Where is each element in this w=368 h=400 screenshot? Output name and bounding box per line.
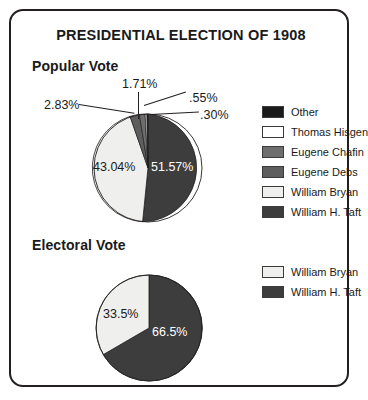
legend-item-eugene-debs[interactable]: Eugene Debs [262, 162, 368, 182]
legend-swatch-thomas-hisgen [262, 126, 284, 138]
legend-item-william-bryan[interactable]: William Bryan [262, 182, 368, 202]
legend-item-thomas-hisgen[interactable]: Thomas Hisgen [262, 122, 368, 142]
legend-label-william-bryan: William Bryan [291, 186, 358, 198]
legend-swatch-william-bryan [262, 186, 284, 198]
legend-item-eugene-chafin[interactable]: Eugene Chafin [262, 142, 368, 162]
popular-vote-pie-chart: 51.57% 43.04% [89, 109, 207, 227]
legend-label-other: Other [291, 106, 319, 118]
slice-label-william-bryan: 33.5% [103, 307, 138, 321]
callout-thomas-hisgen: .55% [189, 91, 218, 105]
slice-label-william-bryan: 43.04% [93, 160, 135, 174]
leader-line-thomas-hisgen [144, 91, 186, 106]
legend-label-thomas-hisgen: Thomas Hisgen [291, 126, 368, 138]
electoral-vote-pie-chart: 66.5% 33.5% [90, 269, 208, 387]
page-title: PRESIDENTIAL ELECTION OF 1908 [11, 27, 351, 43]
electoral-vote-pie-svg [90, 269, 208, 387]
legend-swatch-william-h-taft [262, 286, 284, 298]
legend-label-william-h-taft: William H. Taft [291, 286, 361, 298]
callout-eugene-chafin: 1.71% [122, 77, 157, 91]
slice-label-william-h-taft: 66.5% [152, 325, 187, 339]
legend-item-other[interactable]: Other [262, 102, 368, 122]
chart-card: PRESIDENTIAL ELECTION OF 1908 Popular Vo… [9, 9, 349, 387]
legend-item-william-h-taft[interactable]: William H. Taft [262, 282, 361, 302]
legend-swatch-eugene-chafin [262, 146, 284, 158]
electoral-vote-heading: Electoral Vote [32, 237, 126, 253]
electoral-vote-legend: William Bryan William H. Taft [262, 262, 361, 302]
callout-other: .30% [200, 108, 229, 122]
legend-swatch-eugene-debs [262, 166, 284, 178]
popular-vote-heading: Popular Vote [32, 58, 119, 74]
legend-label-eugene-debs: Eugene Debs [291, 166, 358, 178]
legend-label-eugene-chafin: Eugene Chafin [291, 146, 364, 158]
slice-label-william-h-taft: 51.57% [151, 160, 193, 174]
legend-swatch-william-h-taft [262, 206, 284, 218]
callout-eugene-debs: 2.83% [44, 98, 79, 112]
legend-label-william-bryan: William Bryan [291, 266, 358, 278]
legend-swatch-other [262, 106, 284, 118]
legend-item-william-h-taft[interactable]: William H. Taft [262, 202, 368, 222]
legend-swatch-william-bryan [262, 266, 284, 278]
legend-label-william-h-taft: William H. Taft [291, 206, 361, 218]
legend-item-william-bryan[interactable]: William Bryan [262, 262, 361, 282]
popular-vote-legend: Other Thomas Hisgen Eugene Chafin Eugene… [262, 102, 368, 222]
leader-line-eugene-chafin [138, 92, 139, 119]
